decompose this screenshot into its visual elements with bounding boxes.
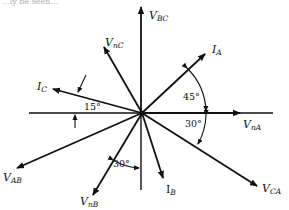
angle-label-30-bottom: 30° [113,158,130,169]
label-VnA: VnA [243,118,262,132]
clipped-caption-text: ...ly be seen... [2,0,58,6]
label-IC: IC [36,80,47,94]
angle-label-30-right: 30° [185,118,202,129]
phasor-diagram: ...ly be seen... 45° 30° 15° 30° VBC VnC… [0,0,289,210]
arrow-15-upper [78,75,86,92]
phasor-IA [142,54,205,113]
label-IA: IA [211,43,222,57]
phasor-VnC [104,47,142,113]
angle-label-45: 45° [183,91,200,102]
label-IB: IB [166,183,176,197]
label-VAB: VAB [3,171,22,185]
angle-label-15: 15° [84,101,101,112]
origin-point [140,111,145,116]
phasor-arrows [17,7,257,195]
phasor-VnB [93,113,142,195]
label-VnC: VnC [105,36,124,50]
label-VnB: VnB [80,195,99,209]
label-VCA: VCA [262,182,282,196]
label-VBC: VBC [149,9,169,23]
phasor-IB [142,113,163,178]
arc-45 [187,68,206,111]
